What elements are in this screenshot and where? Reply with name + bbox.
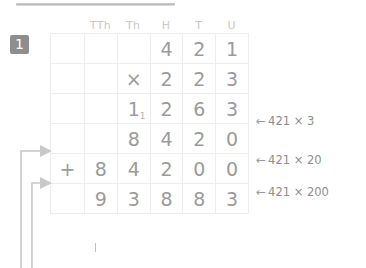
cell-sign-r2 — [51, 64, 85, 94]
heading-ttn: TTh — [84, 18, 117, 33]
heading-h: H — [150, 18, 183, 33]
cell-t-r5: 0 — [183, 154, 216, 184]
left-arrow-icon: ← — [256, 153, 266, 167]
heading-t: T — [182, 18, 215, 33]
cell-t-r3: 6 — [183, 94, 216, 124]
carry-lead-lines — [0, 130, 60, 268]
cell-tth-r6: 9 — [85, 184, 118, 214]
cell-u-r2: 3 — [216, 64, 249, 94]
annotation-partial-3: ←421 × 200 — [256, 184, 329, 200]
annotation-text: 421 × 20 — [268, 153, 322, 167]
cell-u-r4: 0 — [216, 124, 249, 154]
table-row: 9 3 8 8 3 — [51, 184, 249, 214]
arrowhead-icon-lower — [40, 177, 52, 189]
table-row: 11 2 6 3 — [51, 94, 249, 124]
heading-u: U — [215, 18, 248, 33]
cell-h-r4: 4 — [150, 124, 183, 154]
annotation-text: 421 × 200 — [268, 185, 329, 199]
cell-h-r1: 4 — [150, 34, 183, 64]
left-arrow-icon: ← — [256, 185, 266, 199]
carry-lead-line-lower — [32, 183, 41, 268]
cell-th-r6: 3 — [117, 184, 150, 214]
cell-tth-r3 — [85, 94, 118, 124]
cell-tth-r2 — [85, 64, 118, 94]
cell-sign-r1 — [51, 34, 85, 64]
annotation-partial-1: ←421 × 3 — [256, 113, 314, 129]
question-number-badge: 1 — [10, 35, 29, 54]
place-value-headings: TTh Th H T U — [50, 18, 248, 33]
carry-digit: 1 — [140, 112, 146, 121]
carry-lead-line-upper — [21, 151, 41, 268]
table-row: 8 4 2 0 — [51, 124, 249, 154]
cell-t-r6: 8 — [183, 184, 216, 214]
heading-th: Th — [117, 18, 150, 33]
cell-t-r4: 2 — [183, 124, 216, 154]
cell-th-r4: 8 — [117, 124, 150, 154]
table-row: 4 2 1 — [51, 34, 249, 64]
annotation-text: 421 × 3 — [268, 114, 314, 128]
cell-u-r3: 3 — [216, 94, 249, 124]
table-row: × 2 2 3 — [51, 64, 249, 94]
long-multiplication-grid: 4 2 1 × 2 2 3 11 2 6 3 8 — [50, 33, 249, 214]
digit-th-r3: 1 — [128, 98, 140, 120]
cell-th-r2: × — [117, 64, 150, 94]
cell-h-r5: 2 — [150, 154, 183, 184]
table-row: + 8 4 2 0 0 — [51, 154, 249, 184]
cell-th-r1 — [117, 34, 150, 64]
cell-sign-r3 — [51, 94, 85, 124]
cell-u-r5: 0 — [216, 154, 249, 184]
cell-t-r2: 2 — [183, 64, 216, 94]
annotation-partial-2: ←421 × 20 — [256, 152, 322, 168]
cell-th-r3: 11 — [117, 94, 150, 124]
left-arrow-icon: ← — [256, 114, 266, 128]
cell-u-r1: 1 — [216, 34, 249, 64]
cell-tth-r4 — [85, 124, 118, 154]
cell-h-r3: 2 — [150, 94, 183, 124]
answer-units-tick-mark — [95, 243, 96, 252]
cell-u-r6: 3 — [216, 184, 249, 214]
cell-tth-r5: 8 — [85, 154, 118, 184]
cell-tth-r1 — [85, 34, 118, 64]
page-top-rule — [16, 3, 175, 6]
arrowhead-icon-upper — [40, 145, 52, 157]
cell-h-r6: 8 — [150, 184, 183, 214]
cell-h-r2: 2 — [150, 64, 183, 94]
cell-t-r1: 2 — [183, 34, 216, 64]
cell-th-r5: 4 — [117, 154, 150, 184]
